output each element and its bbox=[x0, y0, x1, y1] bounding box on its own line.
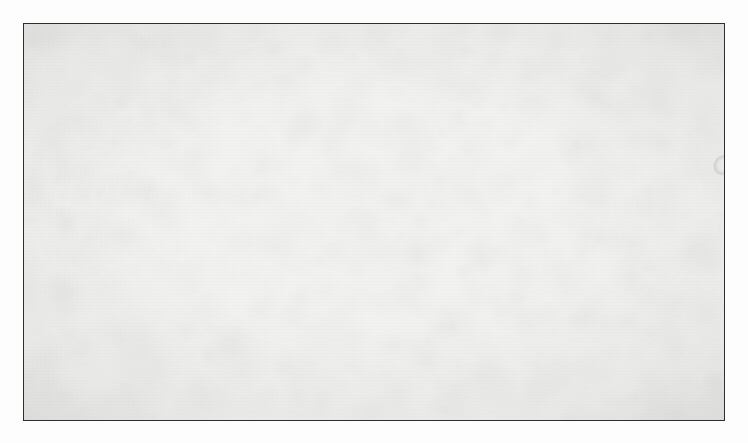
figure-caption bbox=[23, 424, 725, 442]
figure-wrapper bbox=[0, 0, 748, 443]
cell-field-canvas bbox=[24, 24, 724, 420]
blood-smear-micrograph bbox=[23, 23, 725, 421]
page-root bbox=[0, 0, 748, 443]
